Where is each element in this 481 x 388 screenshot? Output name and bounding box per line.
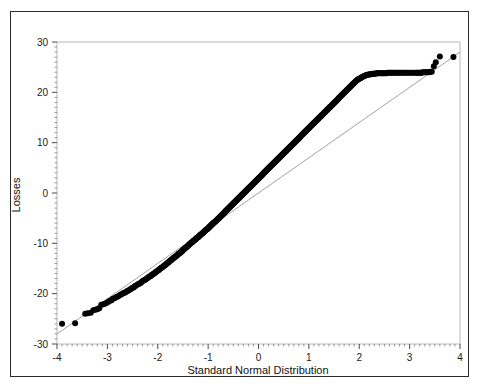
scatter-point [450,54,456,60]
scatter-point [72,320,78,326]
scatter-point [59,321,65,327]
x-tick-label: -1 [204,352,213,363]
y-tick-label: 0 [42,188,48,199]
scatter-point [433,59,439,65]
y-tick-label: 30 [37,37,49,48]
x-axis-tick-labels: -4-3-2-101234 [53,352,464,363]
x-tick-label: 0 [256,352,262,363]
scatter-point [429,69,435,75]
qq-plot-canvas: -4-3-2-101234 -30-20-100102030 Standard … [0,0,481,388]
x-tick-label: 2 [356,352,362,363]
qq-plot-figure: -4-3-2-101234 -30-20-100102030 Standard … [0,0,481,388]
y-tick-label: 20 [37,87,49,98]
x-tick-label: 1 [306,352,312,363]
y-axis-title: Losses [10,177,22,212]
x-tick-label: -4 [53,352,62,363]
y-tick-label: -20 [34,288,49,299]
y-tick-label: -30 [34,339,49,350]
x-tick-label: -2 [153,352,162,363]
x-tick-label: 3 [407,352,413,363]
x-tick-label: 4 [457,352,463,363]
y-tick-label: -10 [34,238,49,249]
x-axis-title: Standard Normal Distribution [187,364,328,376]
y-tick-label: 10 [37,137,49,148]
scatter-point [437,54,443,60]
x-tick-label: -3 [103,352,112,363]
y-axis-tick-labels: -30-20-100102030 [34,37,49,350]
